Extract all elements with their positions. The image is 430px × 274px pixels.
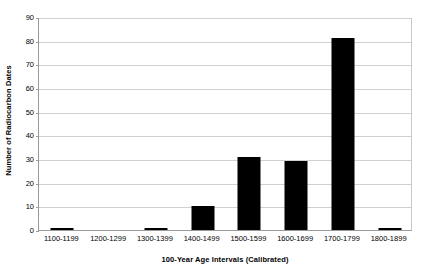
y-axis-title-label: Number of Radiocarbon Dates (4, 65, 13, 176)
y-axis-tick-label: 30 (26, 156, 34, 164)
bar (331, 38, 354, 230)
bar-slot (86, 19, 133, 230)
bar (144, 228, 167, 231)
bar-slot (39, 19, 86, 230)
y-axis-tick-mark (36, 18, 39, 19)
y-axis-tick-label: 60 (26, 85, 34, 93)
x-axis-tick-labels: 1100-11991200-12991300-13991400-14991500… (38, 234, 412, 248)
bar (378, 228, 401, 231)
bar-slot (320, 19, 367, 230)
y-axis-tick-label: 0 (30, 227, 34, 235)
bar (238, 157, 261, 230)
y-axis-tick-mark (36, 113, 39, 114)
bar-slot (226, 19, 273, 230)
x-axis-tick-label: 1300-1399 (132, 234, 179, 243)
x-axis-tick-label: 1700-1799 (319, 234, 366, 243)
x-axis-tick-label: 1100-1199 (38, 234, 85, 243)
y-axis-tick-label: 50 (26, 109, 34, 117)
y-axis-tick-label: 70 (26, 61, 34, 69)
bar-slot (133, 19, 180, 230)
bar-slot (366, 19, 413, 230)
y-axis-tick-mark (36, 65, 39, 66)
y-axis-tick-mark (36, 89, 39, 90)
bar-chart: Number of Radiocarbon Dates 010203040506… (0, 0, 430, 274)
bar (191, 206, 214, 230)
x-axis-title: 100-Year Age Intervals (Calibrated) (38, 255, 412, 264)
y-axis-tick-label: 10 (26, 203, 34, 211)
bars-container (39, 19, 411, 230)
bar-slot (273, 19, 320, 230)
x-axis-tick-label: 1400-1499 (178, 234, 225, 243)
y-axis-tick-label: 40 (26, 132, 34, 140)
y-axis-tick-mark (36, 184, 39, 185)
y-axis-tick-mark (36, 160, 39, 161)
x-axis-tick-label: 1200-1299 (85, 234, 132, 243)
y-axis-tick-label: 90 (26, 14, 34, 22)
y-axis-tick-mark (36, 136, 39, 137)
x-axis-tick-label: 1600-1699 (272, 234, 319, 243)
x-axis-tick-label: 1500-1599 (225, 234, 272, 243)
plot-area (38, 18, 412, 231)
bar (51, 228, 74, 231)
x-axis-tick-label: 1800-1899 (365, 234, 412, 243)
y-axis-tick-label: 80 (26, 38, 34, 46)
y-axis-tick-mark (36, 207, 39, 208)
y-axis-tick-mark (36, 231, 39, 232)
y-axis-tick-mark (36, 42, 39, 43)
y-axis-tick-label: 20 (26, 180, 34, 188)
bar-slot (179, 19, 226, 230)
y-axis-tick-labels: 0102030405060708090 (14, 18, 36, 231)
bar (285, 161, 308, 230)
